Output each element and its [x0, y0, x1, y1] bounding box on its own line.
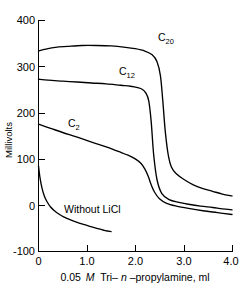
label-c2-subscript: 2 — [76, 123, 80, 132]
x-axis-title-n: n — [121, 271, 127, 283]
y-tick-label-neg100: -100 — [13, 245, 35, 257]
y-tick-label-0: 0 — [29, 200, 35, 212]
chart-background — [0, 0, 243, 288]
y-axis-title: Millivolts — [3, 122, 14, 158]
titration-chart: 400 300 200 100 0 -100 0 1.0 2.0 3.0 4.0… — [0, 0, 243, 288]
label-c20-subscript: 20 — [166, 37, 174, 46]
label-c12-subscript: 12 — [127, 71, 135, 80]
chart-figure: 400 300 200 100 0 -100 0 1.0 2.0 3.0 4.0… — [0, 0, 243, 288]
x-axis-title-prefix: 0.05 — [60, 271, 81, 283]
x-tick-label-2: 2.0 — [128, 255, 143, 267]
x-axis-title-suffix: –propylamine, ml — [130, 271, 210, 283]
x-tick-label-4: 4.0 — [223, 255, 238, 267]
y-tick-label-300: 300 — [17, 61, 35, 73]
x-tick-label-3: 3.0 — [176, 255, 191, 267]
label-without-licl: Without LiCl — [64, 203, 121, 215]
x-axis-title: 0.05 M Tri– n –propylamine, ml — [60, 271, 209, 283]
x-tick-label-1: 1.0 — [79, 255, 94, 267]
x-tick-label-0: 0 — [35, 255, 41, 267]
x-axis-title-mid: Tri– — [100, 271, 118, 283]
y-tick-label-100: 100 — [17, 153, 35, 165]
x-axis-title-molar: M — [86, 271, 95, 283]
y-tick-label-400: 400 — [17, 14, 35, 26]
y-tick-label-200: 200 — [17, 107, 35, 119]
